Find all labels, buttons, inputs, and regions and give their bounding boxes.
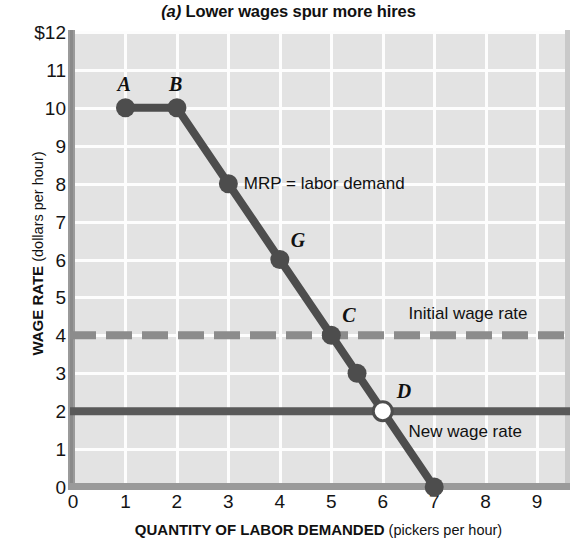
mrp-label: MRP = labor demand <box>244 175 405 192</box>
point-label-a: A <box>117 74 130 94</box>
data-point-marker <box>270 250 289 269</box>
mrp-labor-demand-curve <box>126 108 435 487</box>
new-wage-label: New wage rate <box>408 423 521 440</box>
initial-wage-label: Initial wage rate <box>408 305 527 322</box>
data-layer <box>0 0 577 550</box>
data-point-marker <box>116 98 135 117</box>
data-point-marker <box>167 98 186 117</box>
wage-rate-labor-demand-chart: (a) Lower wages spur more hires $1211109… <box>0 0 577 550</box>
point-label-d: D <box>397 381 411 401</box>
data-point-marker <box>322 326 341 345</box>
point-label-g: G <box>291 230 305 250</box>
point-label-c: C <box>342 305 355 325</box>
point-label-b: B <box>169 74 182 94</box>
data-point-marker <box>348 364 367 383</box>
data-point-marker <box>425 478 444 497</box>
data-point-marker <box>219 174 238 193</box>
data-point-marker-hollow <box>373 402 392 421</box>
